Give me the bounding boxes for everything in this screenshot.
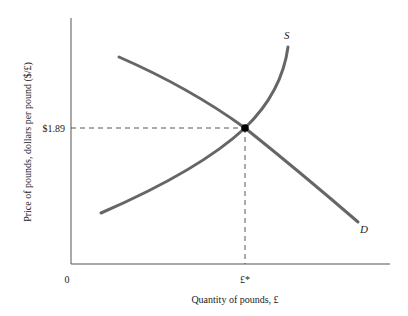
price-tick-label: $1.89 (43, 123, 66, 134)
supply-demand-chart: S D $1.89 £* 0 Quantity of pounds, £ Pri… (0, 0, 408, 316)
origin-label: 0 (65, 274, 70, 285)
supply-curve (101, 47, 288, 213)
quantity-tick-label: £* (240, 274, 250, 285)
demand-label: D (359, 223, 368, 235)
y-axis-title: Price of pounds, dollars per pound ($/£) (22, 62, 34, 222)
demand-curve (119, 57, 358, 222)
equilibrium-point (241, 124, 249, 132)
x-axis-title: Quantity of pounds, £ (191, 294, 278, 305)
supply-label: S (284, 29, 290, 41)
